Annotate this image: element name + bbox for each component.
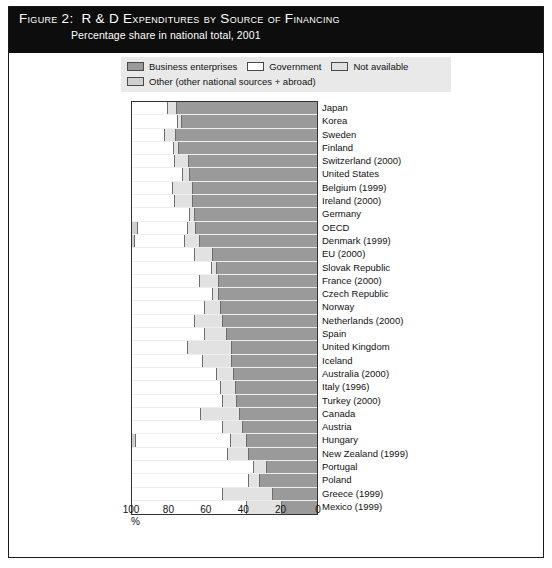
bar-segment-business (232, 355, 317, 367)
category-label: New Zealand (1999) (322, 447, 537, 460)
bar-segment-not-available (228, 448, 248, 460)
category-label: Ireland (2000) (322, 194, 537, 207)
bar-segment-not-available (223, 488, 273, 500)
category-label: Belgium (1999) (322, 181, 537, 194)
bar-segment-not-available (183, 168, 190, 180)
figure-body: Business enterprises Government Not avai… (9, 53, 543, 557)
bar-segment-not-available (175, 195, 194, 207)
category-label: Australia (2000) (322, 367, 537, 380)
bar-row (132, 222, 317, 235)
category-label: United States (322, 167, 537, 180)
figure-header: Figure 2: R & D Expenditures by Source o… (9, 7, 543, 53)
bar-row (132, 488, 317, 501)
bar-segment-government (132, 315, 195, 327)
bar-segment-not-available (188, 341, 232, 353)
bar-segment-business (243, 421, 317, 433)
bar-segment-business (189, 155, 317, 167)
figure-number-label: Figure 2: (19, 11, 73, 26)
legend-item-other: Other (other national sources + abroad) (127, 76, 316, 87)
bar-segment-government (132, 142, 174, 154)
bar-row (132, 341, 317, 354)
bar-segment-government (132, 448, 228, 460)
bar-segment-business (193, 195, 317, 207)
bar-row (132, 421, 317, 434)
bar-segment-not-available (185, 235, 201, 247)
figure-subtitle: Percentage share in national total, 2001 (71, 29, 543, 41)
bar-segment-business (179, 142, 317, 154)
bar-segment-government (132, 208, 190, 220)
legend-item-government: Government (247, 61, 321, 72)
bar-segment-business (200, 235, 317, 247)
category-label: Netherlands (2000) (322, 314, 537, 327)
bar-segment-business (190, 168, 317, 180)
bar-segment-government (132, 288, 213, 300)
category-label: Portugal (322, 460, 537, 473)
bar-segment-government (132, 368, 217, 380)
bar-row (132, 368, 317, 381)
bar-segment-government (132, 182, 173, 194)
axis-tick-label: 20 (275, 504, 286, 515)
stacked-bar-plot (131, 101, 318, 515)
plot-wrapper (131, 101, 318, 515)
bar-row (132, 448, 317, 461)
bar-row (132, 195, 317, 208)
category-label: Greece (1999) (322, 487, 537, 500)
legend-item-business: Business enterprises (127, 61, 237, 72)
bar-segment-not-available (223, 421, 243, 433)
bar-row (132, 102, 317, 115)
bar-segment-not-available (223, 395, 238, 407)
bar-segment-business (176, 129, 317, 141)
bar-segment-not-available (203, 355, 232, 367)
axis-tick-label: 80 (163, 504, 174, 515)
bar-segment-not-available (205, 328, 227, 340)
axis-tick-label: 60 (200, 504, 211, 515)
figure-title: R & D Expenditures by Source of Financin… (81, 11, 339, 26)
bar-segment-business (219, 288, 317, 300)
bar-segment-business (221, 301, 317, 313)
bar-row (132, 115, 317, 128)
bar-segment-government (132, 328, 205, 340)
category-label-column: JapanKoreaSwedenFinlandSwitzerland (2000… (322, 101, 537, 513)
bar-row (132, 182, 317, 195)
category-label: Iceland (322, 354, 537, 367)
bar-segment-business (236, 381, 317, 393)
axis-tick-label: 40 (238, 504, 249, 515)
legend-label-government: Government (269, 61, 321, 72)
bar-segment-government (132, 155, 175, 167)
category-label: Finland (322, 141, 537, 154)
bar-segment-business (240, 408, 317, 420)
bar-segment-not-available (195, 248, 214, 260)
bar-row (132, 248, 317, 261)
bar-segment-business (213, 248, 317, 260)
category-label: Mexico (1999) (322, 500, 537, 513)
category-label: Slovak Republic (322, 261, 537, 274)
bar-segment-business (249, 448, 317, 460)
bar-segment-government (132, 301, 205, 313)
bar-row (132, 315, 317, 328)
bar-segment-not-available (165, 129, 176, 141)
legend-item-not-available: Not available (331, 61, 408, 72)
bar-row (132, 129, 317, 142)
legend-swatch-government-icon (247, 62, 264, 71)
bar-segment-government (132, 102, 168, 114)
axis-tick-label: 100 (123, 504, 140, 515)
bar-row (132, 288, 317, 301)
category-label: Czech Republic (322, 287, 537, 300)
bar-row (132, 168, 317, 181)
bar-segment-not-available (221, 381, 236, 393)
legend-label-business: Business enterprises (149, 61, 237, 72)
category-label: Canada (322, 407, 537, 420)
legend-swatch-not-available-icon (331, 62, 348, 71)
figure-title-row: Figure 2: R & D Expenditures by Source o… (19, 11, 543, 26)
bar-segment-business (193, 182, 317, 194)
bar-segment-government (132, 381, 221, 393)
bar-segment-government (132, 275, 200, 287)
category-label: United Kingdom (322, 340, 537, 353)
legend-label-not-available: Not available (353, 61, 408, 72)
bar-segment-government (132, 355, 203, 367)
category-label: France (2000) (322, 274, 537, 287)
bar-row (132, 262, 317, 275)
bar-segment-not-available (195, 315, 223, 327)
bar-segment-not-available (205, 301, 221, 313)
bar-segment-business (217, 262, 317, 274)
